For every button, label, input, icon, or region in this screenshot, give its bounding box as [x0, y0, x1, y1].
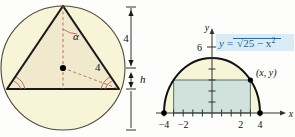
y-axis-label: y — [204, 22, 210, 33]
equation-equals: = — [227, 37, 233, 49]
arrowhead-mid-up — [128, 60, 133, 66]
x-axis-label: x — [288, 108, 294, 119]
semicircle-rectangle-chart: 6 −4 −2 2 4 x y (x, y) y=√25 − x2 — [148, 0, 295, 137]
svg-text:y=√25 − x2: y=√25 − x2 — [218, 36, 275, 49]
point-coordinate-label: (x, y) — [256, 67, 277, 79]
endpoint-dot-right — [257, 110, 263, 116]
x-tick-label-2: 2 — [238, 119, 243, 130]
circle-center-dot — [60, 65, 66, 71]
equation-exponent: 2 — [271, 36, 275, 45]
x-tick-label-minus2: −2 — [178, 119, 189, 130]
endpoint-dot-left — [161, 110, 167, 116]
point-xy-dot — [248, 77, 253, 82]
x-tick-label-minus4: −4 — [159, 119, 170, 130]
arrowhead-mid-down — [128, 72, 133, 78]
vertical-dimension-label: 4 — [123, 32, 129, 44]
arrowhead-top-down — [128, 10, 133, 16]
y-tick-label-6: 6 — [197, 42, 202, 53]
inscribed-triangle-diagram: α 4 4 h — [0, 0, 148, 137]
height-dimension-label: h — [140, 73, 146, 85]
left-figure-panel: α 4 4 h — [0, 0, 148, 137]
apex-angle-label: α — [73, 30, 79, 42]
arrowhead-base-up — [128, 82, 133, 88]
radius-length-label: 4 — [95, 61, 101, 73]
right-figure-panel: 6 −4 −2 2 4 x y (x, y) y=√25 − x2 — [148, 0, 295, 137]
y-axis-arrowhead — [210, 28, 215, 34]
equation-lhs: y — [218, 37, 224, 49]
x-tick-label-4: 4 — [258, 119, 263, 130]
figure-pair-container: α 4 4 h — [0, 0, 295, 137]
x-axis-arrowhead — [280, 111, 286, 116]
